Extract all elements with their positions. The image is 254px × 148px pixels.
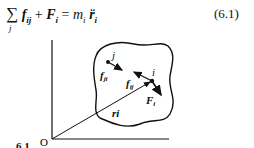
label-i: i: [152, 66, 155, 78]
label-r-i: ri: [112, 107, 120, 119]
particle-system-diagram: j fji fij i Fi ri O: [0, 0, 254, 148]
origin-label: O: [40, 136, 48, 148]
external-force-arrow: [152, 81, 161, 95]
label-F-i: Fi: [145, 94, 155, 108]
clipped-caption-text: 6.1: [16, 140, 30, 148]
force-ji-arrow: [108, 62, 122, 70]
label-f-ji: fji: [100, 69, 108, 83]
force-ij-arrow: [134, 72, 152, 81]
label-j: j: [110, 49, 115, 61]
position-vector: [52, 82, 150, 139]
label-f-ij: fij: [126, 77, 134, 91]
